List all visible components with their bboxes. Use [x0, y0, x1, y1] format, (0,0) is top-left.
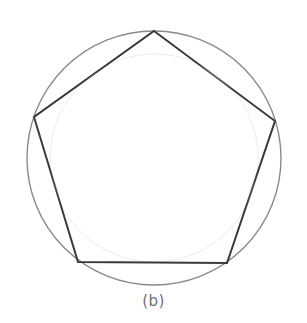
diagram-canvas — [0, 0, 307, 323]
pentagon — [34, 31, 275, 263]
figure-caption: (b) — [0, 292, 307, 310]
circumscribed-circle — [27, 31, 281, 285]
pentagon-in-circle-figure: (b) — [0, 0, 307, 323]
